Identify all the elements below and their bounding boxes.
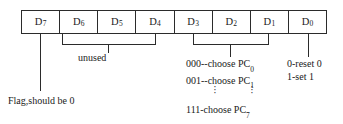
vertical-ellipsis-left-icon: · · · (212, 85, 218, 95)
pc-select-line-1-text: 000--choose PC (186, 58, 250, 69)
vertical-ellipsis-right-icon: · · · (249, 85, 255, 95)
bit-cell-d4-label: D (149, 17, 157, 28)
bit-cell-d2-subscript: 2 (233, 20, 237, 28)
leader-line-flag (40, 34, 41, 91)
leader-line-unused (108, 44, 109, 53)
bit-cell-d6: D6 (60, 11, 98, 33)
register-box: D7 D6 D5 D4 D3 D2 D1 D0 (21, 10, 327, 34)
label-unused: unused (78, 52, 106, 64)
pc-select-line-2: 001--choose PC1 (186, 75, 254, 92)
ellipsis-dot: · (212, 91, 218, 94)
bit-cell-d7-subscript: 7 (43, 20, 47, 28)
bit-cell-d5: D5 (98, 11, 136, 33)
bit-field-diagram: D7 D6 D5 D4 D3 D2 D1 D0 unused Flag,shou… (0, 0, 343, 124)
label-flag: Flag,should be 0 (8, 95, 74, 107)
bit-cell-d6-label: D (73, 17, 81, 28)
pc-select-last-subscript: 7 (246, 111, 250, 120)
d0-meaning-line-1: 0-reset 0 (287, 58, 322, 71)
bit-cell-d4-subscript: 4 (157, 20, 161, 28)
pc-select-line-1: 000--choose PC0 (186, 58, 254, 75)
ellipsis-dot: · (249, 91, 255, 94)
label-pc-select-last: 111-choose PC7 (186, 104, 250, 120)
leader-line-pc-select (230, 44, 231, 57)
pc-select-line-1-subscript: 0 (250, 65, 254, 74)
bit-cell-d5-subscript: 5 (119, 20, 123, 28)
bracket-pc-select (193, 34, 269, 45)
label-d0-meaning: 0-reset 0 1-set 1 (287, 58, 322, 83)
bit-cell-d7-label: D (35, 17, 43, 28)
bit-cell-d1-subscript: 1 (271, 20, 275, 28)
bit-cell-d3-subscript: 3 (195, 20, 199, 28)
bit-cell-d0-subscript: 0 (310, 20, 314, 28)
leader-line-d0 (308, 34, 309, 57)
bit-cell-d6-subscript: 6 (81, 20, 85, 28)
pc-select-last-text: 111-choose PC (186, 104, 246, 115)
bit-cell-d0-label: D (302, 17, 310, 28)
bit-cell-d5-label: D (111, 17, 119, 28)
pc-select-line-2-text: 001--choose PC (186, 75, 250, 86)
bit-cell-d4: D4 (136, 11, 174, 33)
bit-cell-d3: D3 (175, 11, 213, 33)
bit-cell-d0: D0 (289, 11, 326, 33)
d0-meaning-line-2: 1-set 1 (287, 71, 322, 84)
bit-cell-d3-label: D (187, 17, 195, 28)
bit-cell-d2: D2 (213, 11, 251, 33)
bit-cell-d2-label: D (225, 17, 233, 28)
label-pc-select-list: 000--choose PC0 001--choose PC1 (186, 58, 254, 91)
bit-cell-d1-label: D (264, 17, 272, 28)
bit-cell-d7: D7 (22, 11, 60, 33)
bit-cell-d1: D1 (251, 11, 289, 33)
bracket-unused (62, 34, 156, 45)
